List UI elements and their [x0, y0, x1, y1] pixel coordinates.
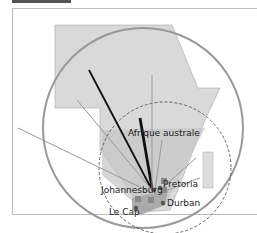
- label-region: Afrique australe: [128, 128, 200, 138]
- city-square: [148, 197, 154, 203]
- diagram-canvas: Afrique australe Johannesburg Pretoria D…: [0, 0, 257, 233]
- label-durban: Durban: [167, 198, 200, 208]
- label-le-cap: Le Cap: [109, 207, 140, 217]
- right-box: [203, 152, 213, 188]
- label-pretoria: Pretoria: [163, 179, 198, 189]
- city-square: [135, 196, 141, 202]
- city-dot-durban: [161, 201, 165, 205]
- label-johannesburg: Johannesburg: [100, 185, 163, 195]
